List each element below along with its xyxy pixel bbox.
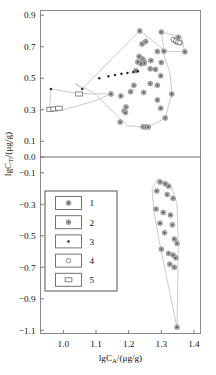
y-tick-label: −1.1 <box>19 326 36 336</box>
legend-item-5[interactable]: 5 <box>56 273 95 286</box>
y-tick-label: 0.5 <box>24 73 36 83</box>
data-point-center <box>124 112 126 114</box>
data-point <box>107 75 110 78</box>
y-tick-label: 0.7 <box>24 42 36 52</box>
data-point <box>137 70 140 73</box>
data-point-center <box>168 253 170 255</box>
legend-label: 4 <box>90 256 95 266</box>
chart-legend: 12345 <box>45 191 117 291</box>
data-point-center <box>156 190 158 192</box>
data-point <box>114 74 117 77</box>
data-point-center <box>133 84 135 86</box>
legend-label: 3 <box>90 237 95 247</box>
data-point-center <box>139 30 141 32</box>
data-point-center <box>160 248 162 250</box>
data-point-center <box>164 232 166 234</box>
data-point-center <box>163 50 165 52</box>
data-point-center <box>173 266 175 268</box>
legend-label: 5 <box>90 275 95 285</box>
data-point-center <box>120 95 122 97</box>
data-point-center <box>68 202 70 204</box>
y-tick-label: −0.7 <box>19 263 36 273</box>
data-point-center <box>175 257 177 259</box>
legend-item-1[interactable]: 1 <box>56 197 95 210</box>
legend-label: 1 <box>90 198 95 208</box>
data-point-center <box>170 214 172 216</box>
data-point-center <box>137 61 139 63</box>
legend-item-2[interactable]: 2 <box>56 216 95 229</box>
data-point <box>132 71 135 74</box>
scatter-plot: 0.90.70.50.30.10.0−0.1−0.3−0.5−0.7−0.9−1… <box>0 0 216 375</box>
y-tick-label: −0.5 <box>19 231 36 241</box>
data-point-center <box>176 242 178 244</box>
y-tick-label: −0.9 <box>19 294 36 304</box>
data-point-center <box>184 51 186 53</box>
y-tick-label: 0.3 <box>24 105 36 115</box>
data-point <box>126 72 129 75</box>
data-point-center <box>160 62 162 64</box>
data-point-center <box>160 31 162 33</box>
x-axis-title: lgCA/(μg/g) <box>99 353 142 364</box>
x-tick-label: 1.4 <box>188 339 200 349</box>
series-3 <box>50 70 139 90</box>
data-point-center <box>147 126 149 128</box>
data-point <box>66 258 70 262</box>
data-point <box>120 73 123 76</box>
data-point-center <box>160 107 162 109</box>
data-point-center <box>166 194 168 196</box>
series-5 <box>47 92 83 111</box>
data-point <box>50 88 53 91</box>
data-point <box>67 240 70 243</box>
data-point-center <box>125 106 127 108</box>
data-point-center <box>143 92 145 94</box>
legend-label: 2 <box>90 218 95 228</box>
data-point-center <box>162 212 164 214</box>
data-point-center <box>141 43 143 45</box>
y-tick-label: 0.1 <box>24 136 36 146</box>
legend-item-3[interactable]: 3 <box>56 235 95 248</box>
data-point <box>55 106 62 110</box>
data-point-center <box>168 185 170 187</box>
data-point-center <box>68 221 70 223</box>
data-point-center <box>159 222 161 224</box>
data-point-center <box>160 75 162 77</box>
data-point-center <box>149 68 151 70</box>
data-point-center <box>171 93 173 95</box>
data-point <box>65 278 72 282</box>
data-point-center <box>138 56 140 58</box>
data-point-center <box>169 263 171 265</box>
x-tick-label: 1.2 <box>123 339 135 349</box>
data-point-center <box>172 197 174 199</box>
x-tick-label: 1.0 <box>58 339 70 349</box>
data-point-center <box>164 183 166 185</box>
legend-item-4[interactable]: 4 <box>56 254 95 267</box>
data-point-center <box>159 181 161 183</box>
data-point-center <box>135 70 137 72</box>
data-point-center <box>149 83 151 85</box>
data-point-center <box>156 51 158 53</box>
data-point-center <box>176 326 178 328</box>
y-axis-title: lgCTi/(μg/g) <box>3 132 14 176</box>
data-point-center <box>110 93 112 95</box>
data-point-center <box>164 117 166 119</box>
data-point-center <box>177 36 179 38</box>
data-point-center <box>156 99 158 101</box>
y-tick-label: −0.3 <box>19 200 36 210</box>
data-point-center <box>140 63 142 65</box>
data-point-center <box>173 238 175 240</box>
data-point-center <box>145 41 147 43</box>
data-point-center <box>172 224 174 226</box>
series-1 <box>109 28 175 129</box>
data-point-center <box>130 91 132 93</box>
data-point-center <box>155 69 157 71</box>
data-point <box>81 88 84 91</box>
data-point <box>98 77 101 80</box>
data-point <box>76 92 83 96</box>
y-tick-label: 0.0 <box>24 152 36 162</box>
data-point <box>177 40 181 44</box>
x-tick-label: 1.1 <box>90 339 102 349</box>
y-tick-label: 0.9 <box>24 10 36 20</box>
data-point-center <box>119 121 121 123</box>
x-tick-label: 1.3 <box>156 339 168 349</box>
chart-figure: 0.90.70.50.30.10.0−0.1−0.3−0.5−0.7−0.9−1… <box>0 0 216 375</box>
